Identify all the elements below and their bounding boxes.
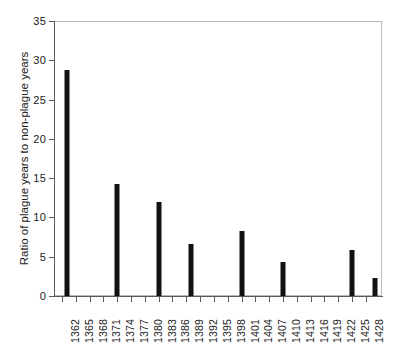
x-tick-mark — [186, 297, 187, 302]
x-tick-label: 1407 — [277, 319, 288, 343]
y-axis-title: Ratio of plague years to non-plague year… — [16, 21, 32, 296]
x-tick-label: 1398 — [236, 319, 247, 343]
y-tick-mark — [49, 139, 54, 140]
x-tick-label: 1401 — [250, 319, 261, 343]
x-tick-mark — [200, 297, 201, 302]
x-tick-mark — [366, 297, 367, 302]
x-tick-mark — [145, 297, 146, 302]
bar — [156, 202, 161, 296]
x-tick-mark — [242, 297, 243, 302]
x-tick-mark — [269, 297, 270, 302]
bar — [350, 250, 355, 296]
x-tick-mark — [324, 297, 325, 302]
x-tick-label: 1422 — [346, 319, 357, 343]
y-tick-mark — [49, 100, 54, 101]
x-tick-mark — [90, 297, 91, 302]
x-tick-mark — [228, 297, 229, 302]
x-tick-mark — [76, 297, 77, 302]
x-tick-label: 1428 — [374, 319, 385, 343]
x-tick-label: 1362 — [70, 319, 81, 343]
x-tick-label: 1392 — [208, 319, 219, 343]
x-tick-label: 1386 — [180, 319, 191, 343]
x-tick-mark — [214, 297, 215, 302]
y-tick-mark — [49, 178, 54, 179]
x-tick-label: 1416 — [319, 319, 330, 343]
x-tick-mark — [311, 297, 312, 302]
x-tick-label: 1368 — [98, 319, 109, 343]
x-tick-mark — [283, 297, 284, 302]
bar — [64, 70, 69, 296]
x-tick-label: 1374 — [125, 319, 136, 343]
bar-chart-figure: 05101520253035 1362136513681371137413771… — [0, 0, 409, 344]
x-tick-label: 1365 — [84, 319, 95, 343]
x-tick-mark — [159, 297, 160, 302]
bar — [115, 184, 120, 296]
y-tick-mark — [49, 296, 54, 297]
plot-area — [55, 21, 382, 296]
x-tick-label: 1371 — [111, 319, 122, 343]
bar — [188, 244, 193, 296]
x-tick-label: 1377 — [139, 319, 150, 343]
y-tick-mark — [49, 60, 54, 61]
x-tick-mark — [297, 297, 298, 302]
x-tick-label: 1413 — [305, 319, 316, 343]
x-tick-mark — [255, 297, 256, 302]
bar — [280, 262, 285, 296]
x-tick-mark — [62, 297, 63, 302]
y-tick-mark — [49, 217, 54, 218]
x-tick-mark — [131, 297, 132, 302]
x-tick-label: 1425 — [360, 319, 371, 343]
y-tick-mark — [49, 257, 54, 258]
bar — [239, 231, 244, 296]
x-tick-mark — [103, 297, 104, 302]
x-tick-mark — [117, 297, 118, 302]
x-tick-label: 1380 — [153, 319, 164, 343]
bar — [373, 278, 378, 296]
x-tick-mark — [172, 297, 173, 302]
x-tick-mark — [352, 297, 353, 302]
y-tick-mark — [49, 21, 54, 22]
x-tick-label: 1404 — [263, 319, 274, 343]
x-tick-label: 1395 — [222, 319, 233, 343]
x-tick-label: 1419 — [332, 319, 343, 343]
x-tick-label: 1383 — [167, 319, 178, 343]
x-tick-label: 1389 — [194, 319, 205, 343]
x-tick-mark — [338, 297, 339, 302]
x-tick-label: 1410 — [291, 319, 302, 343]
